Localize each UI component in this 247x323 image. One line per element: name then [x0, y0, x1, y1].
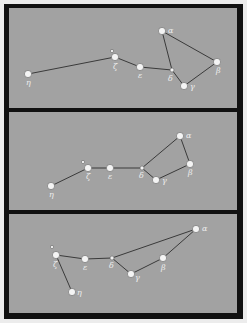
constellation-line	[85, 258, 112, 259]
star-label-alpha: α	[168, 26, 174, 35]
star-label-zeta: ζ	[113, 62, 118, 71]
star-label-beta: β	[187, 168, 193, 177]
star-alpha-icon	[192, 225, 199, 232]
star-zeta-icon	[111, 53, 118, 60]
star-label-zeta: ζ	[53, 260, 58, 269]
star-alpha-icon	[158, 27, 165, 34]
star-label-beta: β	[160, 263, 166, 272]
star-gamma-icon	[127, 270, 134, 277]
star-gamma-icon	[152, 176, 159, 183]
star-delta-icon	[140, 166, 144, 170]
star-label-gamma: γ	[190, 82, 195, 91]
constellation-line	[56, 255, 85, 259]
star-epsilon-icon	[81, 255, 88, 262]
star-zeta-icon	[52, 251, 59, 258]
star-epsilon-icon	[136, 63, 143, 70]
constellation-line	[180, 136, 190, 164]
constellation-line	[162, 31, 172, 70]
star-label-beta: β	[215, 66, 221, 75]
constellation-line	[142, 136, 180, 168]
constellation-line	[162, 31, 217, 62]
constellation-line	[184, 62, 217, 86]
star-label-alpha: α	[186, 131, 192, 140]
star-label-gamma: γ	[162, 176, 167, 185]
constellation-line	[56, 255, 72, 292]
constellation-line	[112, 229, 196, 258]
star-label-delta: δ	[168, 74, 173, 83]
star-label-delta: δ	[139, 171, 144, 180]
star-gamma-icon	[180, 82, 187, 89]
panel-3-constellation: αβγδεζη	[50, 224, 208, 297]
star-label-delta: δ	[109, 261, 114, 270]
panel-2-constellation: αβγδεζη	[47, 131, 193, 199]
constellation-line	[115, 57, 140, 67]
star-epsilon-icon	[106, 164, 113, 171]
star-label-epsilon: ε	[108, 172, 112, 181]
star-label-epsilon: ε	[138, 71, 142, 80]
star-delta-icon	[110, 256, 114, 260]
star-zeta-companion-icon	[50, 245, 53, 248]
star-label-eta: η	[26, 78, 31, 87]
star-eta-icon	[68, 288, 75, 295]
star-label-gamma: γ	[135, 273, 140, 282]
star-eta-icon	[47, 182, 54, 189]
constellation-line	[131, 258, 163, 274]
panel-1-constellation: αβγδεζη	[24, 26, 221, 91]
constellation-diagram: αβγδεζηαβγδεζηαβγδεζη	[0, 0, 247, 323]
star-label-epsilon: ε	[83, 263, 87, 272]
star-zeta-companion-icon	[81, 160, 84, 163]
constellation-line	[28, 57, 115, 74]
constellation-line	[163, 229, 196, 258]
star-beta-icon	[186, 160, 193, 167]
constellation-line	[51, 168, 88, 186]
star-beta-icon	[159, 254, 166, 261]
star-alpha-icon	[176, 132, 183, 139]
star-beta-icon	[213, 58, 220, 65]
star-eta-icon	[24, 70, 31, 77]
star-delta-icon	[170, 68, 174, 72]
star-label-eta: η	[77, 288, 82, 297]
constellation-line	[140, 67, 172, 70]
star-label-zeta: ζ	[86, 172, 91, 181]
star-zeta-icon	[84, 164, 91, 171]
star-label-alpha: α	[202, 224, 208, 233]
star-zeta-companion-icon	[110, 49, 113, 52]
star-label-eta: η	[49, 190, 54, 199]
